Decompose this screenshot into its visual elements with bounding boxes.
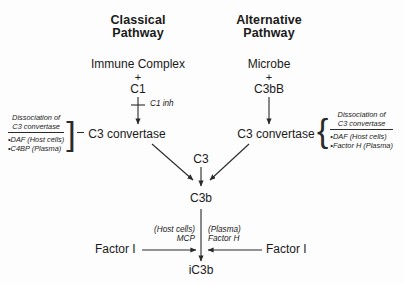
center-substrate-c3: C3: [193, 153, 208, 167]
alternative-regulator-text: Dissociation of C3 convertase •DAF (Host…: [330, 110, 393, 150]
classical-regulator-bracket: ]: [66, 116, 75, 150]
classical-component-c1: C1: [130, 83, 145, 97]
alternative-regulator-item-factor-h: •Factor H (Plasma): [330, 141, 393, 150]
center-product-c3b: C3b: [190, 192, 212, 206]
alternative-regulator-box: { Dissociation of C3 convertase •DAF (Ho…: [317, 110, 393, 150]
right-cofactor-annotation: (Plasma) Factor H: [208, 225, 264, 244]
left-cofactor-source: (Host cells): [143, 225, 195, 234]
alternative-regulator-title-line2: C3 convertase: [330, 119, 393, 128]
classical-regulator-title-line1: Dissociation of: [8, 113, 64, 122]
classical-regulator-item-daf: •DAF (Host cells): [8, 135, 64, 144]
classical-regulator-title-line2: C3 convertase: [8, 122, 64, 131]
arrow-classical-convertase-to-c3b: [152, 144, 193, 180]
classical-pathway-header: Classical Pathway: [110, 14, 165, 40]
right-factor-i: Factor I: [266, 243, 307, 257]
left-cofactor-name: MCP: [143, 234, 195, 243]
right-cofactor-name: Factor H: [208, 234, 264, 243]
complement-pathway-diagram: Classical Pathway Immune Complex + C1 C1…: [0, 0, 404, 285]
classical-header-line2: Pathway: [110, 27, 165, 40]
classical-regulator-text: Dissociation of C3 convertase •DAF (Host…: [8, 113, 64, 153]
alternative-initiator: Microbe: [248, 58, 291, 72]
classical-regulator-connector: [77, 132, 84, 133]
alternative-c3-convertase: C3 convertase: [237, 128, 314, 142]
classical-regulator-item-c4bp: •C4BP (Plasma): [8, 144, 64, 153]
right-cofactor-source: (Plasma): [208, 225, 264, 234]
center-final-product-ic3b: iC3b: [189, 264, 214, 278]
classical-regulator-box: Dissociation of C3 convertase •DAF (Host…: [8, 113, 84, 153]
alternative-regulator-bracket: {: [317, 113, 328, 147]
c1-inhibitor-label: C1 inh: [150, 99, 174, 108]
alternative-regulator-title: Dissociation of C3 convertase: [330, 110, 393, 130]
classical-regulator-title: Dissociation of C3 convertase: [8, 113, 64, 133]
arrow-alternative-convertase-to-c3b: [210, 144, 249, 180]
classical-c3-convertase: C3 convertase: [88, 128, 165, 142]
left-factor-i: Factor I: [95, 243, 136, 257]
alternative-component-c3bb: C3bB: [254, 83, 284, 97]
classical-initiator: Immune Complex: [91, 58, 185, 72]
alternative-regulator-item-daf: •DAF (Host cells): [330, 132, 393, 141]
alternative-regulator-title-line1: Dissociation of: [330, 110, 393, 119]
alternative-header-line2: Pathway: [236, 27, 302, 40]
left-cofactor-annotation: (Host cells) MCP: [143, 225, 195, 244]
alternative-pathway-header: Alternative Pathway: [236, 14, 302, 40]
